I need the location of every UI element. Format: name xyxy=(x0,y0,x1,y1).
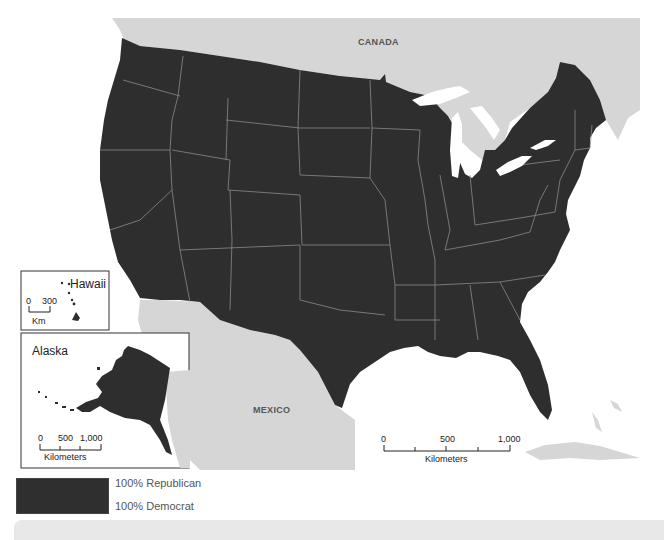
canada-label: CANADA xyxy=(358,37,399,47)
bahamas-region xyxy=(592,400,622,432)
legend-swatch xyxy=(16,478,109,514)
hawaii-scale-tick-0: 0 xyxy=(26,296,31,306)
cuba-region xyxy=(525,442,640,460)
hawaii-scale-tick-300: 300 xyxy=(42,296,57,306)
alaska-scale-unit: Kilometers xyxy=(44,452,87,462)
alaska-scale-tick-1000: 1,000 xyxy=(80,433,103,443)
main-scale-tick-500: 500 xyxy=(440,434,455,444)
legend-label-democrat: 100% Democrat xyxy=(115,500,194,512)
hawaii-scale-unit: Km xyxy=(32,316,46,326)
main-scale-bar: 0 500 1,000 Kilometers xyxy=(381,434,521,464)
main-scale-unit: Kilometers xyxy=(425,454,468,464)
alaska-inset: Alaska 0 500 1,000 Kilometers xyxy=(21,333,190,468)
legend-label-republican: 100% Republican xyxy=(115,477,201,489)
legend: 100% Republican 100% Democrat xyxy=(16,475,316,525)
mexico-label: MEXICO xyxy=(253,405,290,415)
main-scale-tick-1000: 1,000 xyxy=(498,434,521,444)
hawaii-inset: Hawaii 0 300 Km xyxy=(21,271,109,330)
alaska-scale-tick-0: 0 xyxy=(38,433,43,443)
main-scale-tick-0: 0 xyxy=(381,434,386,444)
alaska-title: Alaska xyxy=(32,344,68,358)
hawaii-title: Hawaii xyxy=(70,277,106,291)
alaska-scale-tick-500: 500 xyxy=(58,433,73,443)
bottom-panel xyxy=(14,520,664,540)
